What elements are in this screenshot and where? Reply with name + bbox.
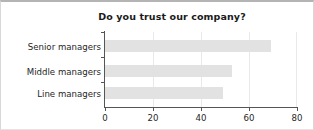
x-tick-label-20: 20	[148, 113, 159, 123]
x-tick-label-0: 0	[102, 113, 107, 123]
category-label-line-managers: Line managers	[37, 89, 101, 99]
bar-chart-figure: Do you trust our company? Senior manager…	[0, 0, 314, 130]
x-tick-40	[201, 107, 202, 111]
y-axis-line	[104, 31, 105, 108]
x-tick-label-80: 80	[292, 113, 303, 123]
x-tick-20	[153, 107, 154, 111]
bar-middle-managers	[105, 65, 232, 77]
y-tick-top	[101, 32, 105, 33]
x-tick-label-60: 60	[244, 113, 255, 123]
y-tick-1	[101, 57, 105, 58]
plot-area	[105, 32, 297, 107]
category-label-middle-managers: Middle managers	[27, 67, 101, 77]
category-label-senior-managers: Senior managers	[28, 42, 101, 52]
x-tick-label-40: 40	[196, 113, 207, 123]
chart-title: Do you trust our company?	[1, 11, 313, 22]
y-tick-2	[101, 82, 105, 83]
gridline-80	[296, 32, 297, 107]
x-tick-0	[105, 107, 106, 111]
x-tick-80	[297, 107, 298, 111]
bar-senior-managers	[105, 40, 271, 52]
x-tick-60	[249, 107, 250, 111]
bar-line-managers	[105, 87, 223, 99]
